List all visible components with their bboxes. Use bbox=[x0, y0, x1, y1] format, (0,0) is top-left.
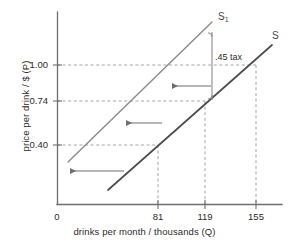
y-axis-title-wrapper: price per drink / $ (P) bbox=[20, 16, 36, 196]
supply-curve-figure: 1.00 0.74 0.40 0 81 119 155 S1 S .45 tax… bbox=[0, 0, 289, 246]
tax-annotation-label: .45 tax bbox=[215, 52, 242, 62]
chart-canvas bbox=[0, 0, 289, 246]
x-tick-label-155: 155 bbox=[239, 211, 273, 222]
curve-label-s1-subscript: 1 bbox=[225, 16, 229, 23]
curve-label-s1: S1 bbox=[218, 11, 229, 22]
y-axis-title: price per drink / $ (P) bbox=[20, 16, 31, 196]
x-axis-title: drinks per month / thousands (Q) bbox=[0, 226, 289, 237]
x-tick-label-119: 119 bbox=[188, 211, 222, 222]
x-tick-label-81: 81 bbox=[141, 211, 175, 222]
x-tick-label-0: 0 bbox=[40, 211, 74, 222]
curve-label-s1-base: S bbox=[218, 11, 225, 22]
curve-label-s: S bbox=[272, 30, 279, 41]
